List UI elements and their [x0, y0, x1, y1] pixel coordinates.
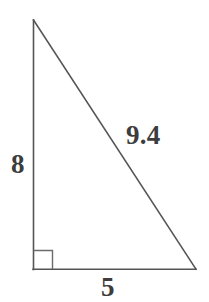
- hypotenuse-label: 9.4: [126, 122, 161, 149]
- vertical-leg-label: 8: [11, 151, 25, 178]
- right-angle-marker-icon: [34, 251, 53, 270]
- horizontal-leg-label: 5: [101, 274, 115, 301]
- triangle-diagram: 8 9.4 5: [0, 0, 209, 302]
- triangle-figure: [0, 0, 209, 302]
- hypotenuse-line: [34, 20, 197, 269]
